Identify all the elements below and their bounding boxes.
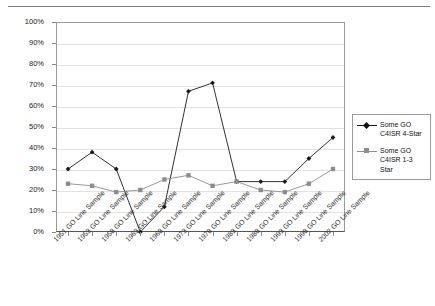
y-axis-tick-label: 10% (29, 207, 44, 215)
x-axis-tick-mark (285, 232, 286, 236)
x-axis-tick-mark (333, 232, 334, 236)
y-axis-tick-label: 40% (29, 144, 44, 152)
data-point-square (138, 188, 142, 192)
header-divider (8, 6, 430, 7)
legend-marker-diamond-icon (357, 120, 377, 132)
y-axis-tick-label: 60% (29, 102, 44, 110)
legend-item-4-star: Some GO C4ISR 4-Star (357, 120, 426, 139)
data-point-square (114, 190, 118, 194)
data-point-square (66, 182, 70, 186)
chart-legend: Some GO C4ISR 4-Star Some GO C4ISR 1-3 S… (352, 114, 431, 180)
y-axis-tick-label: 90% (29, 39, 44, 47)
y-axis-tick-label: 100% (25, 18, 44, 26)
data-point-diamond (210, 81, 215, 86)
y-axis-tick-label: 30% (29, 165, 44, 173)
legend-marker-square-icon (357, 146, 377, 158)
data-point-square (90, 184, 94, 188)
y-axis-tick-label: 80% (29, 60, 44, 68)
x-axis-tick-mark (237, 232, 238, 236)
legend-item-1-3-star: Some GO C4ISR 1-3 Star (357, 146, 426, 174)
x-axis-tick-mark (92, 232, 93, 236)
legend-label-1-3-star: Some GO C4ISR 1-3 Star (380, 146, 426, 174)
data-point-square (186, 173, 190, 177)
x-axis-tick-mark (309, 232, 310, 236)
x-axis-tick-mark (116, 232, 117, 236)
y-axis: 0%10%20%30%40%50%60%70%80%90%100% (0, 22, 52, 232)
data-point-square (283, 190, 287, 194)
y-axis-tick-label: 20% (29, 186, 44, 194)
data-point-square (234, 179, 238, 183)
data-point-square (331, 167, 335, 171)
data-point-square (259, 188, 263, 192)
x-axis-tick-mark (261, 232, 262, 236)
data-point-diamond (258, 179, 263, 184)
x-axis-tick-mark (213, 232, 214, 236)
x-axis-tick-mark (164, 232, 165, 236)
data-point-square (162, 177, 166, 181)
x-axis-tick-mark (188, 232, 189, 236)
data-point-square (307, 182, 311, 186)
chart-figure: 0%10%20%30%40%50%60%70%80%90%100% 1951 G… (0, 0, 435, 306)
y-axis-tick-label: 50% (29, 123, 44, 131)
x-axis-tick-mark (140, 232, 141, 236)
x-axis: 1951 GO Line Sample1953 GO Line Sample19… (0, 238, 435, 306)
legend-label-4-star: Some GO C4ISR 4-Star (380, 120, 422, 139)
x-axis-tick-mark (68, 232, 69, 236)
data-point-square (210, 184, 214, 188)
y-axis-tick-label: 0% (33, 228, 44, 236)
y-axis-tick-label: 70% (29, 81, 44, 89)
data-point-diamond (186, 89, 191, 94)
